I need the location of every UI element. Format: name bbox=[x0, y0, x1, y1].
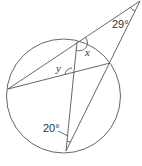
circle bbox=[7, 39, 121, 153]
angle-label-20: 20° bbox=[43, 122, 60, 134]
angle-arc-apex bbox=[130, 7, 135, 11]
angle-label-x: x bbox=[84, 46, 90, 58]
line-top-to-bottom bbox=[66, 42, 77, 151]
line-bottom-to-apex bbox=[66, 1, 140, 151]
angle-label-29: 29° bbox=[112, 18, 129, 30]
geometry-diagram: 29° x y 20° bbox=[0, 0, 142, 166]
angle-label-y: y bbox=[55, 62, 61, 74]
